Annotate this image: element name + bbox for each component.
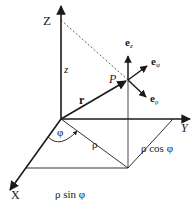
dashed-projection-line: [61, 20, 128, 80]
rho-label: ρ: [92, 138, 98, 150]
rho-cos-phi-label: ρ cos φ: [141, 142, 173, 154]
r-vector-label: r: [79, 93, 85, 107]
x-axis-label: X: [11, 188, 20, 201]
e-rho-vector: [128, 80, 146, 97]
e-rho-label: eρ: [150, 92, 159, 106]
e-z-label: ez: [125, 36, 133, 50]
cylindrical-coordinates-diagram: Z Y X z P r φ ρ ρ cos φ ρ sin φ ez eφ eρ: [0, 0, 196, 201]
e-phi-vector: [128, 66, 147, 80]
phi-angle-label: φ: [57, 126, 63, 138]
rho-sin-phi-label: ρ sin φ: [55, 188, 85, 200]
position-vector-r: [61, 81, 126, 119]
z-axis-label: Z: [43, 13, 51, 28]
e-phi-label: eφ: [151, 55, 160, 69]
point-p-label: P: [108, 72, 117, 86]
y-axis-label: Y: [181, 121, 189, 135]
z-height-label: z: [63, 63, 69, 75]
x-axis: [10, 119, 61, 190]
